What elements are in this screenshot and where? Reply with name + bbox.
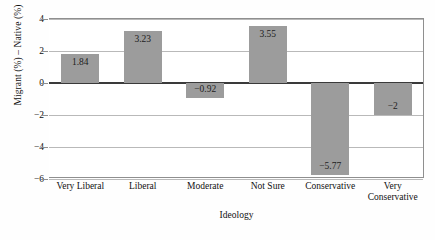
bar-slot: 3.55 bbox=[237, 19, 300, 177]
x-tick-label: Not Sure bbox=[237, 181, 300, 192]
bar-value-label: 3.23 bbox=[134, 34, 151, 44]
y-tick-mark bbox=[41, 147, 48, 148]
bar-value-label: 1.84 bbox=[72, 57, 89, 67]
bar-value-label: 3.55 bbox=[259, 29, 276, 39]
x-tick-label: Liberal bbox=[112, 181, 175, 192]
x-axis-title: Ideology bbox=[49, 210, 424, 220]
bar-slot: 3.23 bbox=[112, 19, 175, 177]
bar-series: 1.843.23−0.923.55−5.77−2 bbox=[49, 19, 423, 177]
y-tick-mark bbox=[41, 19, 48, 20]
gridline bbox=[49, 179, 423, 180]
y-tick-mark bbox=[41, 83, 48, 84]
x-tick-label: Very Liberal bbox=[49, 181, 112, 192]
x-tick-label: Moderate bbox=[174, 181, 237, 192]
bar-value-label: −5.77 bbox=[319, 161, 341, 171]
plot-area: 420−2−4−6 1.843.23−0.923.55−5.77−2 bbox=[49, 18, 424, 178]
bar-slot: 1.84 bbox=[49, 19, 112, 177]
bar-slot: −5.77 bbox=[299, 19, 362, 177]
bar-value-label: −0.92 bbox=[194, 84, 216, 94]
x-tick-label: Very Conservative bbox=[362, 181, 425, 203]
bar-slot: −2 bbox=[362, 19, 425, 177]
y-axis-title: Migrant (%) – Native (%) bbox=[13, 0, 23, 135]
bar-value-label: −2 bbox=[388, 101, 398, 111]
y-tick-mark bbox=[41, 179, 48, 180]
y-tick-mark bbox=[41, 51, 48, 52]
x-tick-label: Conservative bbox=[299, 181, 362, 192]
bar-chart-figure: Migrant (%) – Native (%) 420−2−4−6 1.843… bbox=[0, 0, 435, 240]
y-tick-mark bbox=[41, 115, 48, 116]
bar-slot: −0.92 bbox=[174, 19, 237, 177]
